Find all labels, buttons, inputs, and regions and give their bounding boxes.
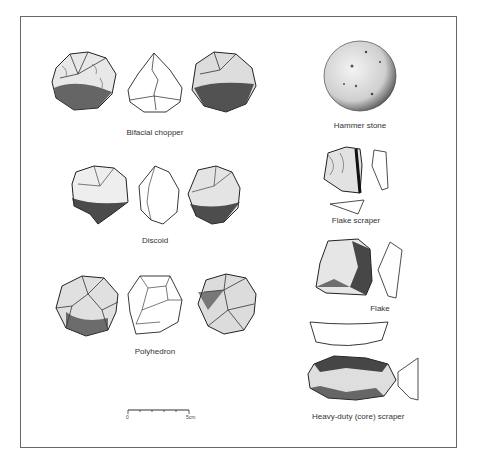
heavy-duty-scraper-drawing <box>306 354 398 402</box>
scale-start-label: 0 <box>126 414 129 420</box>
heavy-duty-scraper-top-view <box>308 320 392 350</box>
flake-scraper-drawing <box>320 145 370 195</box>
polyhedron-view-1 <box>52 272 122 338</box>
discoid-profile <box>135 162 183 228</box>
artifact-label: Flake scraper <box>328 216 384 225</box>
discoid-view-2 <box>184 162 244 228</box>
bifacial-chopper-view-2 <box>186 48 260 114</box>
polyhedron-view-2 <box>194 270 260 338</box>
flake-scraper-edge <box>328 198 368 216</box>
scale-end-label: 5cm <box>186 414 195 420</box>
artifact-label: Hammer stone <box>325 121 395 130</box>
artifact-label: Flake <box>365 304 395 313</box>
artifact-label: Bifacial chopper <box>120 128 190 137</box>
artifact-label: Discoid <box>130 236 180 245</box>
artifact-label: Polyhedron <box>125 347 185 356</box>
heavy-duty-scraper-profile <box>396 356 422 402</box>
artifact-label: Heavy-duty (core) scraper <box>312 412 402 421</box>
flake-profile <box>374 240 404 302</box>
polyhedron-profile <box>124 272 190 338</box>
flake-drawing <box>314 237 376 297</box>
flake-scraper-profile <box>370 148 390 192</box>
discoid-view-1 <box>68 162 132 228</box>
scale-bar <box>127 406 190 420</box>
bifacial-chopper-view-1 <box>48 48 122 114</box>
bifacial-chopper-profile <box>124 50 186 116</box>
hammer-stone-drawing <box>322 38 398 114</box>
